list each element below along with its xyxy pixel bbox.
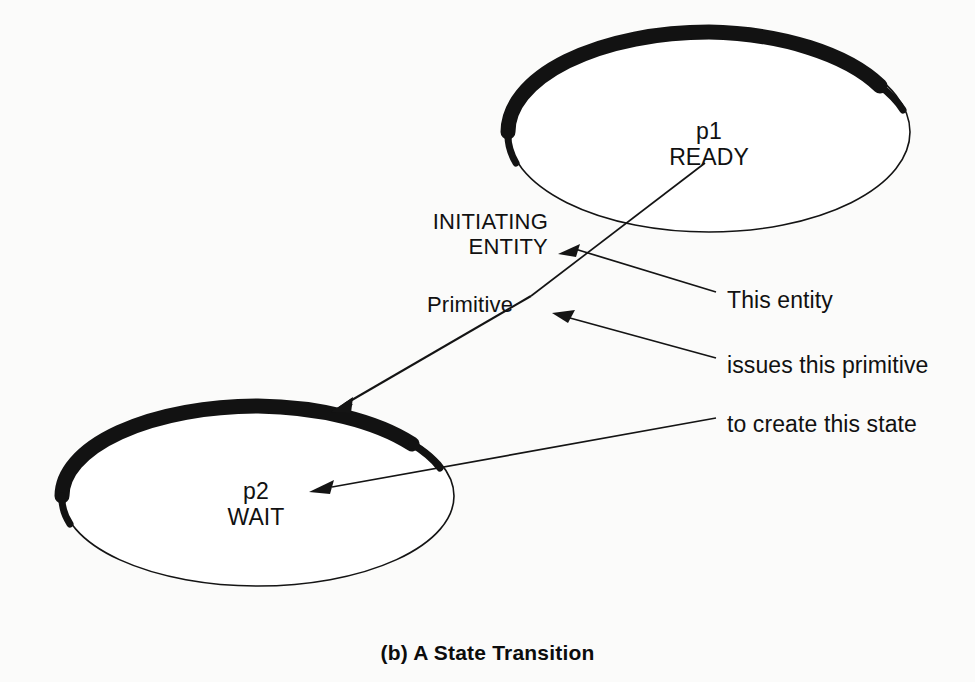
state-p1-name: p1 — [669, 118, 749, 144]
leader-arrowhead-initiating-entity — [558, 244, 580, 257]
leader-arrowhead-primitive — [552, 310, 575, 323]
transition-arrow-head-solid — [331, 397, 353, 413]
figure-canvas: p1 READY p2 WAIT INITIATING ENTITY Primi… — [0, 0, 975, 682]
state-p2-name: p2 — [227, 478, 284, 504]
state-p2-state: WAIT — [227, 504, 284, 530]
leader-line-this-entity — [575, 249, 716, 292]
annotation-issues-this-primitive: issues this primitive — [727, 352, 929, 378]
annotation-primitive: Primitive — [427, 292, 513, 317]
annotation-this-entity: This entity — [727, 287, 833, 313]
leader-this-entity — [558, 244, 716, 292]
annotation-initiating-entity-line2: ENTITY — [433, 234, 548, 259]
state-p1-label: p1 READY — [669, 118, 749, 170]
figure-caption: (b) A State Transition — [0, 641, 975, 665]
annotation-initiating-entity-line1: INITIATING — [433, 209, 548, 234]
state-transition-diagram — [0, 0, 975, 682]
annotation-to-create-this-state: to create this state — [727, 411, 917, 437]
state-p1-state: READY — [669, 144, 749, 170]
state-p2-label: p2 WAIT — [227, 478, 284, 530]
annotation-initiating-entity: INITIATING ENTITY — [433, 209, 548, 259]
leader-line-issues-this-primitive — [570, 318, 716, 358]
leader-issues-this-primitive — [552, 310, 716, 358]
